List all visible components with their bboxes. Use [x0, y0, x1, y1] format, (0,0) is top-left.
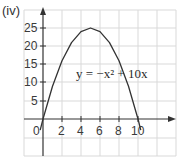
x-axis-arrow-icon — [168, 116, 176, 122]
y-axis-arrow-icon — [40, 7, 46, 15]
y-tick-25: 25 — [24, 21, 38, 35]
y-tick-20: 20 — [24, 39, 38, 53]
x-tick-6: 6 — [96, 124, 103, 138]
y-tick-15: 15 — [24, 57, 38, 71]
x-tick-10: 10 — [131, 124, 145, 138]
x-tick-2: 2 — [58, 124, 65, 138]
y-tick-5: 5 — [31, 94, 38, 108]
y-tick-10: 10 — [24, 75, 38, 89]
chart-plot: 0 2 4 6 8 10 5 10 15 20 25 y = −x² + 10x — [0, 0, 180, 160]
x-tick-8: 8 — [115, 124, 122, 138]
x-tick-4: 4 — [77, 124, 84, 138]
equation-label: y = −x² + 10x — [76, 66, 148, 81]
x-tick-0: 0 — [33, 124, 40, 138]
